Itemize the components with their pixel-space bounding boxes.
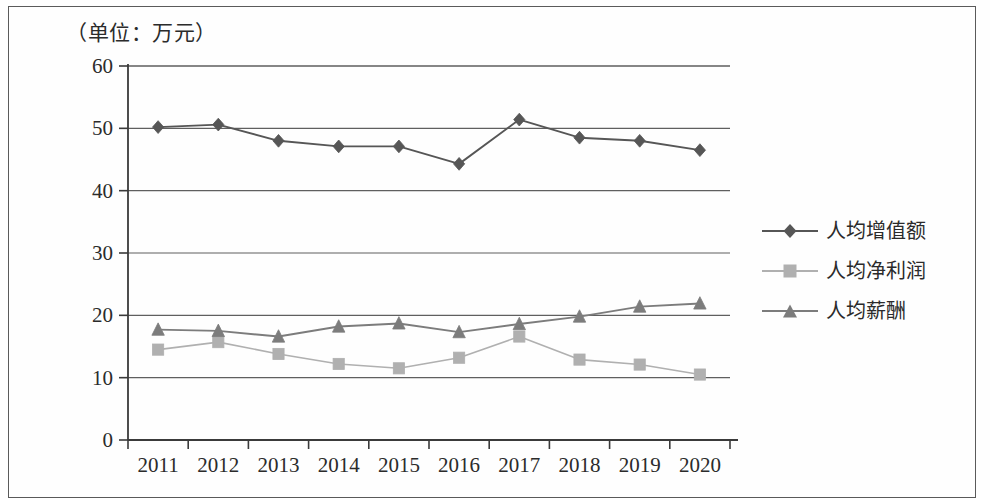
- x-tick-label: 2013: [258, 453, 300, 477]
- square-marker-icon: [762, 262, 818, 280]
- legend-item-2: 人均薪酬: [762, 298, 906, 324]
- data-point: [574, 354, 585, 365]
- series-3: [152, 297, 706, 342]
- data-point: [694, 369, 705, 380]
- x-axis-tick-labels: 2011201220132014201520162017201820192020: [137, 453, 720, 477]
- series-line: [158, 303, 700, 336]
- legend-label-2: 人均薪酬: [826, 301, 906, 321]
- y-tick-label: 20: [92, 303, 113, 327]
- data-point: [273, 348, 284, 359]
- diamond-glyph: [783, 224, 797, 238]
- x-tick-label: 2020: [679, 453, 721, 477]
- legend-marker-shape: [783, 305, 797, 318]
- legend-marker-shape: [784, 224, 797, 238]
- y-axis-ticks: [119, 66, 128, 440]
- x-tick-label: 2012: [197, 453, 239, 477]
- data-point: [153, 344, 164, 355]
- data-point: [333, 140, 344, 153]
- data-point: [514, 331, 525, 342]
- x-tick-label: 2019: [619, 453, 661, 477]
- data-point: [153, 121, 164, 134]
- data-point: [393, 363, 404, 374]
- x-axis-ticks: [128, 440, 730, 449]
- legend-marker-shape: [784, 265, 797, 278]
- series-line: [158, 120, 700, 164]
- triangle-glyph: [783, 304, 797, 318]
- data-point: [393, 140, 404, 153]
- x-tick-label: 2018: [559, 453, 601, 477]
- diamond-marker-icon: [762, 222, 818, 240]
- legend-label-0: 人均增值额: [826, 221, 926, 241]
- series-1: [153, 113, 706, 170]
- y-tick-label: 10: [92, 366, 113, 390]
- series-line: [158, 337, 700, 375]
- data-point: [454, 157, 465, 170]
- y-tick-label: 40: [92, 179, 113, 203]
- x-tick-label: 2016: [438, 453, 480, 477]
- y-tick-label: 30: [92, 241, 113, 265]
- legend-item-0: 人均增值额: [762, 218, 926, 244]
- data-point: [454, 352, 465, 363]
- data-point: [213, 118, 224, 131]
- legend-item-1: 人均净利润: [762, 258, 926, 284]
- y-axis-tick-labels: 0102030405060: [92, 54, 113, 452]
- series-2: [153, 331, 706, 380]
- x-tick-label: 2015: [378, 453, 420, 477]
- square-glyph: [783, 264, 797, 278]
- x-tick-label: 2014: [318, 453, 361, 477]
- data-point: [333, 358, 344, 369]
- data-point: [694, 144, 705, 157]
- triangle-marker-icon: [762, 302, 818, 320]
- x-tick-label: 2017: [498, 453, 540, 477]
- y-tick-label: 60: [92, 54, 113, 78]
- x-tick-label: 2011: [137, 453, 178, 477]
- legend-label-1: 人均净利润: [826, 261, 926, 281]
- data-point: [574, 131, 585, 144]
- data-series-layer: [152, 113, 706, 380]
- y-tick-label: 50: [92, 116, 113, 140]
- data-point: [213, 337, 224, 348]
- data-point: [514, 113, 525, 126]
- data-point: [634, 359, 645, 370]
- y-tick-label: 0: [103, 428, 114, 452]
- data-point: [634, 134, 645, 147]
- data-point: [273, 134, 284, 147]
